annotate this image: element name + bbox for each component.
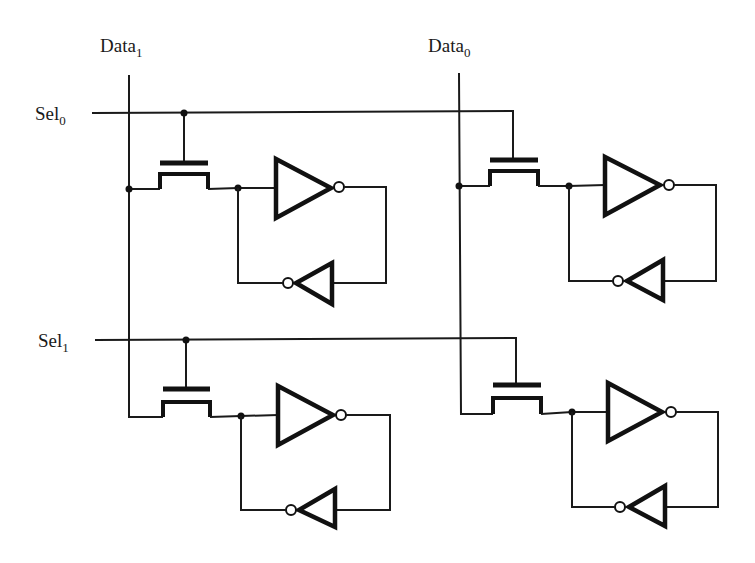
feedback-inverter-bubble-icon — [613, 276, 623, 286]
memory-cells — [126, 110, 719, 528]
label-sel0: Sel0 — [35, 103, 66, 128]
circuit-diagram: Data1 Data0 Sel0 Sel1 — [0, 0, 755, 563]
junction-dot — [181, 110, 188, 117]
memory-cell — [493, 383, 718, 526]
inverter-bubble-icon — [336, 410, 346, 420]
sel0-line — [92, 111, 513, 160]
drain-wire — [208, 188, 238, 189]
data0-line — [459, 73, 493, 414]
feedback-inverter-icon — [629, 486, 665, 526]
transistor-channel-icon — [493, 398, 541, 414]
junction-dot — [183, 337, 190, 344]
feedback-loop-wire — [332, 187, 386, 283]
memory-cell — [126, 110, 387, 305]
feedback-inverter-icon — [296, 263, 332, 304]
feedback-loop-wire — [665, 412, 718, 507]
inverter-input-wire — [569, 185, 605, 186]
feedback-inverter-icon — [627, 260, 663, 300]
label-data0: Data0 — [428, 35, 470, 60]
inverter-icon — [608, 383, 662, 441]
feedback-loop-wire — [335, 415, 390, 510]
junction-dot — [456, 183, 463, 190]
data1-line — [129, 75, 163, 417]
feedback-inverter-bubble-icon — [286, 505, 296, 515]
drain-wire — [210, 416, 241, 417]
transistor-channel-icon — [163, 402, 210, 417]
transistor-channel-icon — [160, 174, 208, 189]
transistor-channel-icon — [490, 171, 538, 186]
junction-dot — [126, 186, 133, 193]
feedback-loop-wire — [663, 185, 716, 281]
inverter-input-wire — [241, 415, 278, 416]
label-sel1: Sel1 — [38, 330, 69, 355]
inverter-bubble-icon — [664, 180, 674, 190]
inverter-icon — [276, 159, 331, 218]
inverter-bubble-icon — [666, 407, 676, 417]
inverter-bubble-icon — [334, 182, 344, 192]
feedback-inverter-bubble-icon — [615, 502, 625, 512]
sel1-line — [95, 338, 516, 385]
inverter-icon — [605, 157, 660, 215]
memory-cell — [456, 157, 717, 300]
signal-labels: Data1 Data0 Sel0 Sel1 — [35, 35, 470, 355]
label-data1: Data1 — [100, 35, 142, 60]
inverter-icon — [278, 386, 333, 445]
feedback-inverter-bubble-icon — [283, 278, 293, 288]
memory-cell — [163, 337, 390, 528]
feedback-inverter-icon — [299, 489, 335, 527]
drain-wire — [541, 412, 572, 414]
bus-lines — [92, 73, 516, 417]
